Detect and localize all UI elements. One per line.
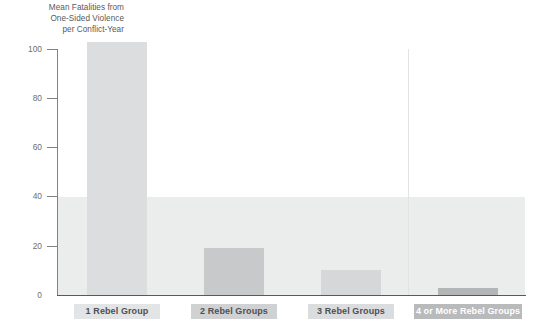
y-axis-line (57, 49, 58, 296)
bar-4-or-more-rebel-groups (438, 288, 498, 295)
y-tick-label-20: 20 (2, 242, 42, 250)
y-tick-mark-20 (47, 246, 57, 247)
y-tick-label-60: 60 (2, 143, 42, 151)
y-tick-mark-80 (47, 98, 57, 99)
plot-area (57, 49, 525, 295)
bar-2-rebel-groups (204, 248, 264, 295)
category-divider-line (408, 49, 409, 295)
y-tick-mark-100 (47, 49, 57, 50)
category-chip-3-rebel-groups: 3 Rebel Groups (308, 304, 394, 319)
y-tick-label-0: 0 (2, 291, 42, 299)
y-tick-mark-40 (47, 196, 57, 197)
y-tick-label-40: 40 (2, 192, 42, 200)
bar-3-rebel-groups (321, 270, 381, 295)
y-tick-mark-60 (47, 147, 57, 148)
category-chip-4-or-more-rebel-groups: 4 or More Rebel Groups (414, 304, 522, 319)
x-axis-category-labels: 1 Rebel Group 2 Rebel Groups 3 Rebel Gro… (57, 304, 525, 320)
y-tick-label-80: 80 (2, 94, 42, 102)
y-axis-title: Mean Fatalities from One-Sided Violence … (4, 2, 124, 36)
bar-chart: Mean Fatalities from One-Sided Violence … (0, 0, 551, 334)
bar-1-rebel-group (87, 42, 147, 295)
x-axis-line (57, 295, 526, 296)
category-chip-2-rebel-groups: 2 Rebel Groups (191, 304, 277, 319)
category-chip-1-rebel-group: 1 Rebel Group (74, 304, 160, 319)
y-tick-label-100: 100 (2, 45, 42, 53)
